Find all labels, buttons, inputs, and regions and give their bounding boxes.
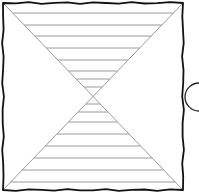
bottom-hatch-lines: [11, 104, 176, 182]
hourglass-diagram: [0, 0, 199, 194]
semicircle-tab: [185, 83, 199, 111]
top-hatch-lines: [13, 13, 174, 87]
diagonal-lines: [3, 3, 183, 190]
